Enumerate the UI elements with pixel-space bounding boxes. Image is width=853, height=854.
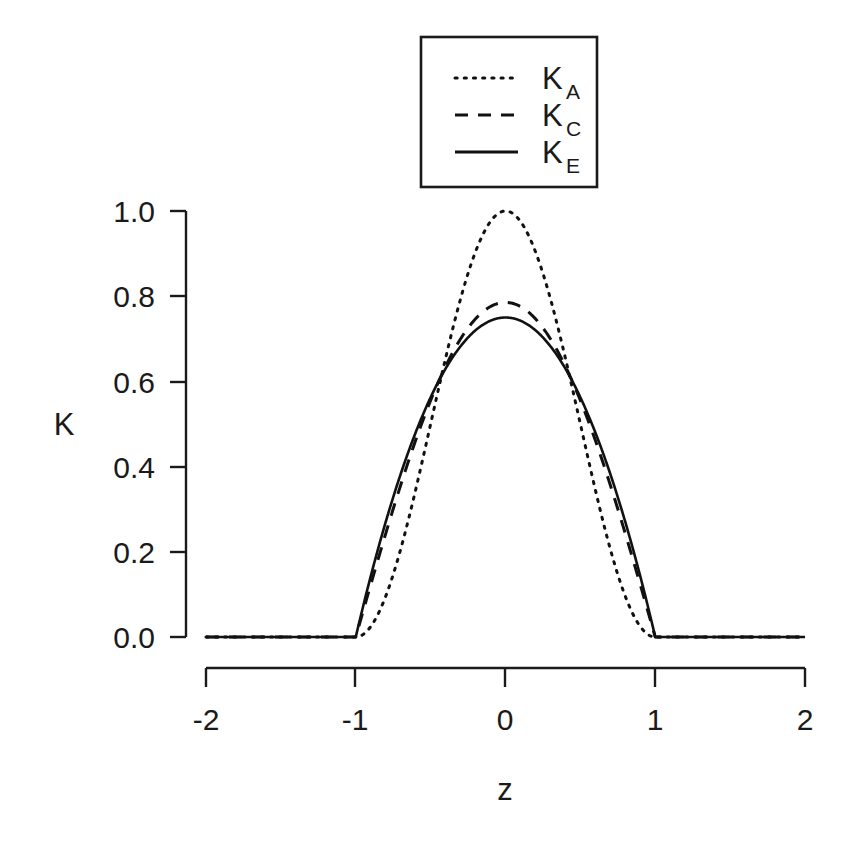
y-tick-label-0-8: 0.8 <box>113 280 155 313</box>
legend-label-k-a: K <box>542 61 563 96</box>
x-tick-label-1: 1 <box>647 703 664 736</box>
y-axis: 1.0 0.8 0.6 0.4 0.2 0.0 K <box>54 195 186 654</box>
kernel-functions-figure: 1.0 0.8 0.6 0.4 0.2 0.0 K -2 -1 0 1 2 z <box>0 0 853 854</box>
curve-k-c <box>206 302 805 637</box>
legend-sublabel-k-a: A <box>566 80 580 103</box>
x-tick-label-0: 0 <box>497 703 514 736</box>
y-tick-label-0-0: 0.0 <box>113 621 155 654</box>
x-axis-title: z <box>497 772 513 807</box>
x-axis: -2 -1 0 1 2 z <box>193 668 814 807</box>
plot-canvas: 1.0 0.8 0.6 0.4 0.2 0.0 K -2 -1 0 1 2 z <box>0 0 853 854</box>
legend-sublabel-k-e: E <box>566 154 580 177</box>
curve-group <box>206 211 805 637</box>
legend-label-k-e: K <box>542 135 563 170</box>
x-tick-label-2: 2 <box>797 703 814 736</box>
legend-sublabel-k-c: C <box>566 117 581 140</box>
y-tick-label-0-2: 0.2 <box>113 536 155 569</box>
y-tick-label-0-6: 0.6 <box>113 366 155 399</box>
legend[interactable]: K A K C K E <box>421 37 597 187</box>
x-tick-label-neg2: -2 <box>193 703 220 736</box>
x-tick-label-neg1: -1 <box>342 703 369 736</box>
curve-k-a <box>206 211 805 637</box>
y-axis-title: K <box>54 407 75 442</box>
legend-label-k-c: K <box>542 98 563 133</box>
curve-k-e <box>206 318 805 638</box>
y-tick-label-1-0: 1.0 <box>113 195 155 228</box>
y-tick-label-0-4: 0.4 <box>113 451 155 484</box>
